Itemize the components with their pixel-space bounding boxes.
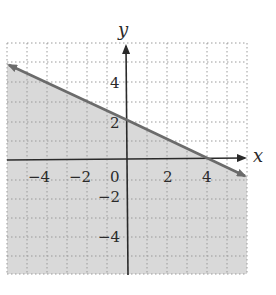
tick-x-neg2: −2	[69, 168, 91, 186]
tick-x-neg4: −4	[28, 168, 50, 186]
tick-x-4: 4	[202, 168, 212, 186]
tick-y-neg2: −2	[98, 188, 120, 206]
y-axis-label: y	[117, 19, 129, 40]
x-axis-label: x	[253, 145, 263, 166]
tick-x-2: 2	[163, 168, 173, 186]
tick-y-neg4: −4	[98, 228, 120, 246]
tick-origin: 0	[110, 168, 120, 186]
inequality-graph: y x −4 −2 0 2 4 4 2 −2 −4	[0, 0, 276, 295]
tick-y-2: 2	[110, 114, 120, 132]
tick-y-4: 4	[110, 74, 120, 92]
